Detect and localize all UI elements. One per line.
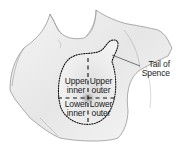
- label-tail-of-spence-line2: Spence: [140, 69, 170, 78]
- label-upper-outer-line2: outer: [89, 86, 113, 95]
- label-lower-outer-line2: outer: [89, 109, 113, 118]
- label-upper-inner-line2: inner: [64, 86, 88, 95]
- label-lower-inner-line2: inner: [64, 109, 88, 118]
- label-upper-inner: Upper inner: [64, 77, 88, 95]
- label-lower-outer: Lower outer: [89, 100, 113, 118]
- label-lower-inner: Lower inner: [64, 100, 88, 118]
- label-tail-of-spence: Tail of Spence: [140, 60, 170, 78]
- label-upper-outer: Upper outer: [89, 77, 113, 95]
